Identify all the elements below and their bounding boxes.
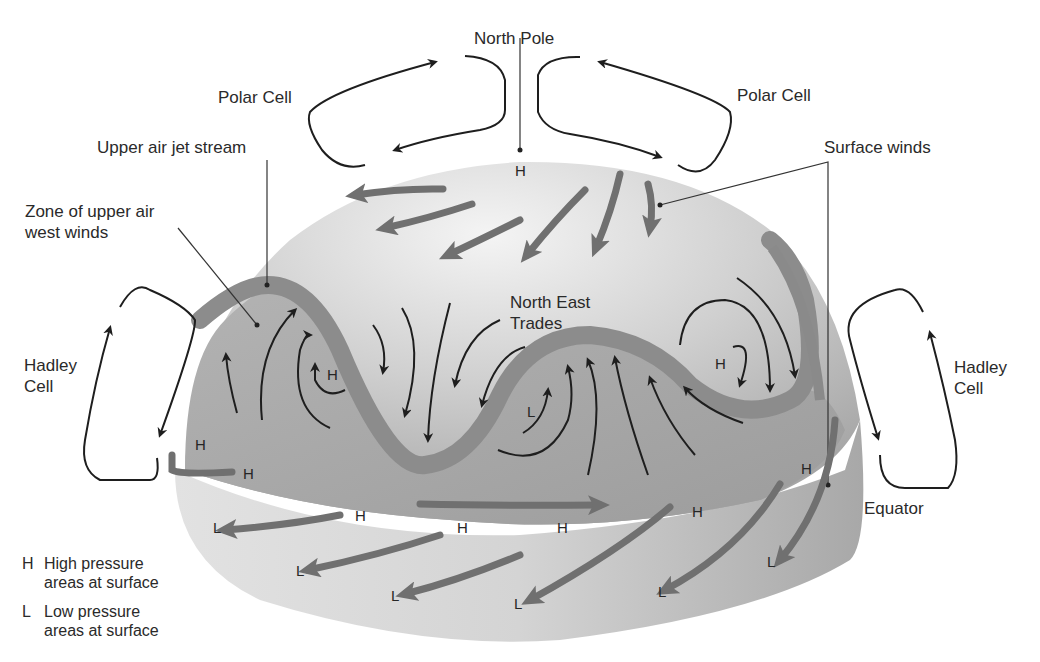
pressure-mark-high: H bbox=[457, 520, 468, 536]
equator-label: Equator bbox=[864, 499, 924, 519]
polar-cell-left-label: Polar Cell bbox=[218, 88, 292, 108]
polar-cell-right-label: Polar Cell bbox=[737, 86, 811, 106]
polar-cell-left-loop bbox=[395, 56, 505, 150]
upper-west-winds-label-line1: Zone of upper air bbox=[25, 202, 154, 222]
upper-west-winds-label-line2: west winds bbox=[25, 223, 108, 243]
pressure-mark-high: H bbox=[515, 163, 526, 179]
pressure-mark-low: L bbox=[658, 584, 666, 600]
pressure-mark-high: H bbox=[801, 461, 812, 477]
surface-winds-label: Surface winds bbox=[824, 138, 931, 158]
legend-key: H bbox=[22, 554, 44, 573]
ne-trades-label-line1: North East bbox=[510, 293, 590, 313]
pressure-mark-high: H bbox=[327, 367, 338, 383]
ne-trades-label-line2: Trades bbox=[510, 314, 562, 334]
hadley-right-label-line2: Cell bbox=[954, 379, 983, 399]
pressure-mark-high: H bbox=[715, 356, 726, 372]
legend-text-line2: areas at surface bbox=[44, 622, 159, 639]
pressure-mark-high: H bbox=[557, 520, 568, 536]
hadley-right-label-line1: Hadley bbox=[954, 358, 1007, 378]
legend-text-line2: areas at surface bbox=[44, 574, 159, 591]
jet-stream-label: Upper air jet stream bbox=[97, 138, 246, 158]
pressure-mark-high: H bbox=[692, 504, 703, 520]
hadley-left-label-line1: Hadley bbox=[24, 356, 77, 376]
pressure-mark-low: L bbox=[527, 404, 535, 420]
polar-cell-right-loop bbox=[538, 57, 660, 157]
pressure-mark-low: L bbox=[767, 554, 775, 570]
legend-text-line1: Low pressure bbox=[44, 603, 140, 620]
pressure-mark-low: L bbox=[391, 588, 399, 604]
north-pole-label: North Pole bbox=[474, 29, 554, 49]
hadley-left-label-line2: Cell bbox=[24, 377, 53, 397]
pressure-mark-high: H bbox=[355, 508, 366, 524]
legend-key: L bbox=[22, 602, 44, 621]
pressure-mark-low: L bbox=[514, 596, 522, 612]
hadley-cell-left-loop bbox=[120, 287, 195, 435]
pressure-mark-low: L bbox=[296, 563, 304, 579]
hadley-cell-right-loop bbox=[848, 289, 923, 438]
circulation-diagram: North Pole Polar Cell Polar Cell Upper a… bbox=[0, 0, 1040, 662]
legend-low-pressure: LLow pressureareas at surface bbox=[22, 602, 159, 640]
pressure-mark-low: L bbox=[213, 520, 221, 536]
pressure-mark-high: H bbox=[243, 466, 254, 482]
pressure-mark-high: H bbox=[195, 437, 206, 453]
legend-high-pressure: HHigh pressureareas at surface bbox=[22, 554, 159, 592]
legend-text-line1: High pressure bbox=[44, 555, 144, 572]
